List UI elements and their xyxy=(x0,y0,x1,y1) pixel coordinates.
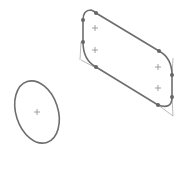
vertex-point[interactable] xyxy=(170,95,174,99)
rounded-slot-shape[interactable] xyxy=(80,10,174,116)
vertex-point[interactable] xyxy=(81,18,85,22)
vertex-point[interactable] xyxy=(156,103,160,107)
vertex-point[interactable] xyxy=(94,65,98,69)
center-marker xyxy=(92,25,98,31)
center-marker xyxy=(34,109,40,115)
slot-outline[interactable] xyxy=(83,10,172,106)
ellipse-shape[interactable] xyxy=(7,75,67,149)
sketch-canvas[interactable] xyxy=(0,0,186,172)
center-marker xyxy=(155,64,161,70)
vertex-point[interactable] xyxy=(170,73,174,77)
center-marker xyxy=(92,47,98,53)
construction-line xyxy=(80,42,81,60)
center-marker xyxy=(155,85,161,91)
vertex-point[interactable] xyxy=(94,11,98,15)
vertex-point[interactable] xyxy=(157,49,161,53)
vertex-point[interactable] xyxy=(81,40,85,44)
